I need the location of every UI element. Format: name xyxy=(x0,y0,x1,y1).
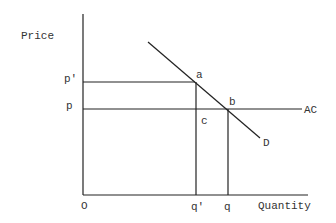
point-c-label: c xyxy=(201,116,208,127)
p-label: p xyxy=(66,101,73,112)
q-label: q xyxy=(224,202,231,213)
q-prime-label: q' xyxy=(191,202,204,213)
origin-label: O xyxy=(81,201,88,212)
ac-label: AC xyxy=(304,105,317,116)
point-a-label: a xyxy=(196,70,203,81)
p-prime-label: p' xyxy=(64,74,77,85)
point-b-label: b xyxy=(229,97,236,108)
demand-label: D xyxy=(263,138,270,149)
y-axis-label: Price xyxy=(21,31,54,42)
x-axis-label: Quantity xyxy=(258,201,311,212)
economics-diagram: Price p' p a b c AC D O q' q Quantity xyxy=(0,0,336,223)
